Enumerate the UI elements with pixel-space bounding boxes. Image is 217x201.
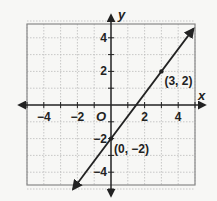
data-line (73, 29, 193, 189)
x-tick-label: −4 (37, 110, 51, 124)
point-marker (159, 69, 163, 73)
point-label: (3, 2) (164, 74, 192, 88)
y-tick-label: 4 (100, 31, 107, 45)
origin-label: O (96, 109, 106, 124)
y-tick-label: −2 (93, 132, 107, 146)
y-tick-label: 2 (100, 64, 107, 78)
y-tick-label: −4 (93, 165, 107, 179)
x-tick-label: 2 (141, 110, 148, 124)
x-axis-label: x (197, 88, 206, 103)
point-label: (0, −2) (114, 142, 149, 156)
x-tick-label: −2 (71, 110, 85, 124)
coordinate-plane: x y O −4−22442−2−4 (3, 2)(0, −2) (0, 0, 217, 201)
x-tick-label: 4 (175, 110, 182, 124)
y-axis-label: y (117, 7, 126, 22)
point-marker (109, 136, 113, 140)
